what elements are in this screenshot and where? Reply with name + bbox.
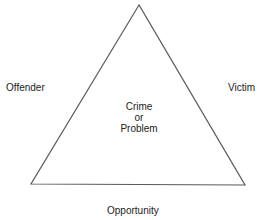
triangle-outline xyxy=(31,5,245,185)
crime-triangle-diagram: Offender Victim Opportunity Crime or Pro… xyxy=(0,0,257,220)
side-label-victim: Victim xyxy=(228,82,255,93)
center-label-line-3: Problem xyxy=(109,123,169,134)
side-label-opportunity: Opportunity xyxy=(107,205,159,216)
side-label-offender: Offender xyxy=(6,82,45,93)
center-label: Crime or Problem xyxy=(109,101,169,134)
center-label-line-2: or xyxy=(109,112,169,123)
center-label-line-1: Crime xyxy=(109,101,169,112)
